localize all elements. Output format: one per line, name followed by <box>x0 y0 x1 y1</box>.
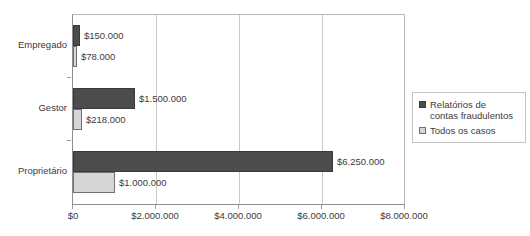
x-axis-label-2m: $2.000.000 <box>131 211 179 221</box>
bar-empregado-todos <box>73 46 77 67</box>
x-axis-label-6m: $6.000.000 <box>297 211 345 221</box>
bar-label-empregado-fraudulentos: $150.000 <box>84 31 124 41</box>
bar-gestor-todos <box>73 109 82 130</box>
x-axis-tick-4m <box>238 205 239 209</box>
bar-proprietario-fraudulentos <box>73 151 333 172</box>
bar-group-gestor: $1.500.000 $218.000 <box>73 88 404 138</box>
x-axis-label-8m: $8.000.000 <box>380 211 428 221</box>
legend-swatch-dark-icon <box>419 101 426 108</box>
legend-label-fraudulentos: Relatórios decontas fraudulentos <box>430 99 513 121</box>
x-axis-tick-2m <box>155 205 156 209</box>
chart-legend: Relatórios decontas fraudulentos Todos o… <box>412 92 526 143</box>
y-axis-label-empregado: Empregado <box>18 40 67 50</box>
bar-label-empregado-todos: $78.000 <box>81 52 115 62</box>
x-axis-tick-0 <box>72 205 73 209</box>
legend-label-todos-casos: Todos os casos <box>430 125 495 136</box>
bar-label-proprietario-todos: $1.000.000 <box>119 178 167 188</box>
legend-item-fraudulentos: Relatórios decontas fraudulentos <box>419 99 520 121</box>
bar-empregado-fraudulentos <box>73 25 80 46</box>
bar-group-proprietario: $6.250.000 $1.000.000 <box>73 151 404 201</box>
bar-chart: $150.000 $78.000 $1.500.000 $218.000 $6.… <box>0 0 530 236</box>
y-axis-tick-1 <box>67 77 71 78</box>
y-axis-tick-2 <box>67 140 71 141</box>
bar-label-gestor-fraudulentos: $1.500.000 <box>139 94 187 104</box>
x-axis-labels: $0 $2.000.000 $4.000.000 $6.000.000 $8.0… <box>0 211 530 227</box>
legend-item-todos-casos: Todos os casos <box>419 125 520 136</box>
bar-group-empregado: $150.000 $78.000 <box>73 25 404 75</box>
x-axis-tick-6m <box>321 205 322 209</box>
bar-label-proprietario-fraudulentos: $6.250.000 <box>337 157 385 167</box>
x-axis-label-0: $0 <box>68 211 79 221</box>
legend-swatch-light-icon <box>419 127 426 134</box>
bar-proprietario-todos <box>73 172 115 193</box>
bar-label-gestor-todos: $218.000 <box>86 115 126 125</box>
legend-label-fraudulentos-line2: contas fraudulentos <box>430 110 513 121</box>
y-axis-label-gestor: Gestor <box>38 103 67 113</box>
x-axis-tick-8m <box>404 205 405 209</box>
legend-label-fraudulentos-line1: Relatórios de <box>430 99 486 110</box>
y-axis-label-proprietario: Proprietário <box>18 166 67 176</box>
plot-area: $150.000 $78.000 $1.500.000 $218.000 $6.… <box>72 14 405 205</box>
y-axis: Empregado Gestor Proprietário <box>0 14 67 205</box>
bar-gestor-fraudulentos <box>73 88 135 109</box>
x-axis-label-4m: $4.000.000 <box>214 211 262 221</box>
